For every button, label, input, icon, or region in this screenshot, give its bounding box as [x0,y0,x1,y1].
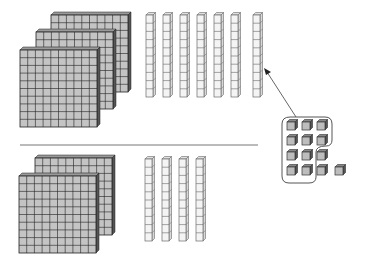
ten-rod [253,13,263,98]
regroup-arrow-icon [264,68,296,117]
hundreds-flats-bottom [19,155,115,253]
ten-rod [145,157,155,242]
ten-rod [197,13,207,98]
one-cube [287,135,298,146]
one-cube [335,165,346,176]
one-cube [317,165,328,176]
tens-rods-bottom [145,157,206,242]
ten-rod [163,13,173,98]
one-cube [302,165,313,176]
hundred-flat [20,47,100,127]
one-cube [302,120,313,131]
ten-rod [179,157,189,242]
one-cube [302,150,313,161]
one-cube [317,135,328,146]
ten-rod [180,13,190,98]
one-cube [317,150,328,161]
ones-cubes-group [282,117,346,183]
ten-rod [146,13,156,98]
ten-rod [231,13,241,98]
tens-rods-top [146,13,263,98]
one-cube [287,165,298,176]
base-ten-diagram [0,0,366,274]
hundreds-flats-top [20,12,131,127]
one-cube [287,120,298,131]
hundred-flat [19,173,99,253]
ten-rod [214,13,224,98]
one-cube [302,135,313,146]
one-cube [287,150,298,161]
ten-rod [162,157,172,242]
ten-rod [196,157,206,242]
one-cube [317,120,328,131]
